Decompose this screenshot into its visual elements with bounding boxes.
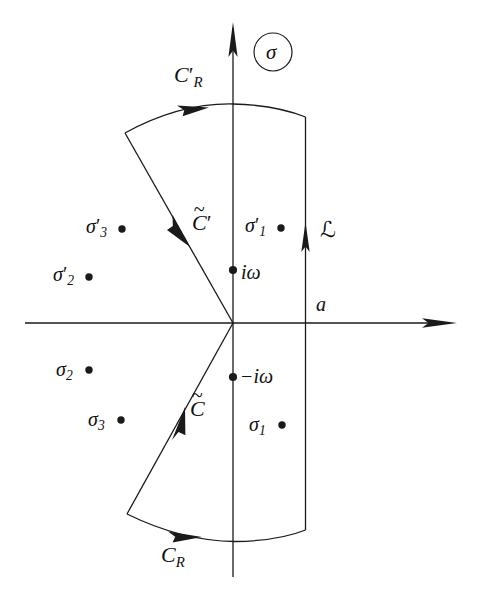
pole-sigma-3-base: σ: [88, 408, 98, 430]
sigma-plane-label: σ: [266, 42, 276, 63]
label-pole-sigma-1-prime: σ′1: [245, 215, 266, 239]
label-C-tilde-prime-tilde: ~: [194, 199, 205, 219]
imaginary-axis: [228, 22, 237, 577]
pole-sigma-1-base: σ: [249, 413, 259, 435]
pole-dot-sigma-1-prime: [277, 224, 284, 231]
upper-diagonal-C-tilde-prime: [125, 133, 233, 323]
label-CR-prime-sub: R: [194, 74, 203, 90]
pole-sigma-2-prime-base: σ: [53, 263, 63, 285]
label-pole-sigma-2: σ2: [56, 359, 73, 383]
label-pole-sigma-2-prime: σ′2: [53, 264, 74, 288]
upper-diagonal-arrowhead: [167, 215, 190, 247]
pole-sigma-3-sub: 3: [98, 418, 105, 433]
pole-dot-sigma-2: [85, 366, 92, 373]
label-C-tilde: ~C: [190, 398, 205, 420]
lower-arc-arrowhead: [168, 532, 202, 543]
pole-sigma-2-sub: 2: [66, 368, 73, 383]
contour-drawing-canvas: [0, 0, 478, 602]
label-minus-i-omega: −iω: [240, 366, 273, 386]
pole-sigma-2-base: σ: [56, 358, 66, 380]
label-CR: CR: [161, 544, 185, 570]
pole-sigma-3-prime-base: σ: [86, 215, 96, 237]
pole-sigma-1-sub: 1: [259, 423, 266, 438]
label-C-tilde-tilde: ~: [192, 385, 203, 405]
label-abscissa-a: a: [316, 294, 326, 314]
pole-dot-sigma-2-prime: [85, 273, 92, 280]
real-axis: [25, 318, 457, 327]
label-CR-prime: C′R: [174, 64, 203, 90]
lower-diagonal-arrowhead: [172, 407, 185, 440]
branch-point-dot-minus-i-omega: [229, 373, 237, 381]
label-pole-sigma-3: σ3: [88, 409, 105, 433]
label-CR-base: C: [161, 542, 176, 567]
label-CR-prime-base: C: [174, 62, 189, 87]
upper-arc-CR-prime: [125, 104, 306, 133]
pole-dot-sigma-3: [117, 416, 124, 423]
pole-dot-sigma-3-prime: [118, 225, 125, 232]
lower-diagonal-C-tilde: [127, 323, 233, 514]
label-pole-sigma-1: σ1: [249, 414, 266, 438]
pole-sigma-1-prime-base: σ: [245, 214, 255, 236]
label-bromwich-L: ℒ: [320, 219, 336, 241]
complex-plane-contour-diagram: σ C′R CR ~C′ ~C ℒ a iω −iω σ′3 σ′2 σ′1 σ…: [0, 0, 478, 602]
label-i-omega: iω: [241, 262, 261, 282]
label-C-tilde-prime: ~C′: [192, 212, 212, 234]
upper-arc-arrowhead: [177, 106, 209, 117]
pole-sigma-1-prime-sub: 1: [259, 224, 266, 239]
label-C-tilde-prime-mark: ′: [207, 210, 212, 235]
label-pole-sigma-3-prime: σ′3: [86, 216, 107, 240]
lower-arc-CR: [127, 514, 306, 543]
label-CR-sub: R: [176, 554, 185, 570]
branch-point-dot-i-omega: [229, 266, 237, 274]
pole-sigma-3-prime-sub: 3: [100, 225, 107, 240]
pole-sigma-2-prime-sub: 2: [67, 273, 74, 288]
pole-dot-sigma-1: [278, 421, 285, 428]
